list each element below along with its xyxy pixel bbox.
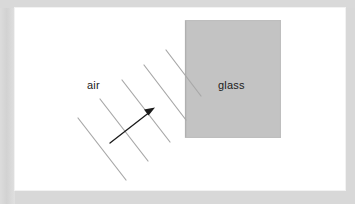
wavefront-lines-group — [78, 50, 201, 180]
page-backdrop-left-gutter — [0, 0, 15, 204]
ray-arrow-group — [110, 108, 155, 144]
wavefront-line-2 — [100, 99, 148, 161]
figure-card: air glass — [15, 8, 345, 190]
ray-arrow-head — [144, 108, 155, 116]
wavefront-line-1 — [78, 118, 126, 180]
page-backdrop: air glass — [0, 0, 355, 204]
glass-label: glass — [218, 79, 245, 91]
refraction-wavefront-diagram — [15, 8, 345, 190]
page-backdrop-top-gutter — [0, 0, 355, 8]
air-label: air — [87, 79, 100, 91]
